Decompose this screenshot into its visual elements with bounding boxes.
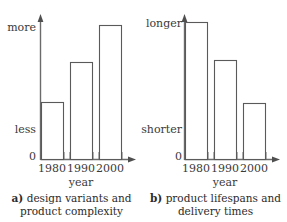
bar-b-1990 [215, 61, 237, 160]
caption-tag-b: b) [150, 192, 162, 204]
y-axis-arrow-b [182, 14, 188, 22]
caption-line1-b: product lifespans and [166, 192, 281, 204]
caption-line2-a: product complexity [0, 205, 143, 218]
x-tick-label-a-2000: 2000 [91, 163, 129, 174]
bar-a-1980 [42, 103, 64, 160]
x-axis-title-a: year [41, 177, 121, 188]
caption-line1-a: design variants and [27, 192, 132, 204]
caption-b: b) product lifespans and delivery times [144, 192, 287, 217]
y-axis-label-top-a: more [0, 22, 36, 33]
caption-tag-a: a) [12, 192, 24, 204]
chart-panel-b: longer shorter 0 1980 1990 2000 year b) … [144, 0, 287, 222]
caption-line2-b: delivery times [144, 205, 287, 218]
caption-a: a) design variants and product complexit… [0, 192, 143, 217]
y-axis-label-bottom-a: less [0, 124, 36, 135]
y-axis-label-bottom-b: shorter [140, 124, 182, 135]
y-axis-label-top-b: longer [140, 18, 182, 29]
bar-b-2000 [244, 104, 266, 160]
x-axis-title-b: year [185, 177, 265, 188]
bar-b-1980 [186, 23, 208, 160]
figure-two-bar-charts: more less 0 1980 1990 2000 year a) desig… [0, 0, 287, 222]
y-axis-arrow-a [38, 14, 44, 22]
x-tick-label-b-2000: 2000 [235, 163, 273, 174]
x-axis-arrow-a [128, 157, 136, 163]
y-axis-label-zero-b: 0 [140, 151, 182, 162]
x-axis-arrow-b [272, 157, 280, 163]
chart-panel-a: more less 0 1980 1990 2000 year a) desig… [0, 0, 143, 222]
bar-a-2000 [100, 26, 122, 160]
y-axis-label-zero-a: 0 [0, 151, 36, 162]
bar-a-1990 [71, 63, 93, 160]
